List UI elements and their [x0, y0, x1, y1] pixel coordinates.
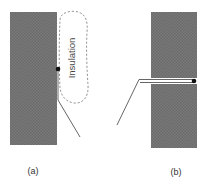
block-b-lower: [151, 84, 197, 148]
block-a: [10, 12, 57, 145]
panel-b: (b): [117, 12, 197, 177]
diagram-canvas: Insulation (a) (b): [0, 0, 205, 185]
junction-dot-b: [192, 79, 197, 84]
panel-b-label: (b): [171, 167, 182, 177]
insulation-label: Insulation: [66, 38, 77, 79]
panel-a-label: (a): [28, 166, 39, 176]
block-b-upper: [151, 12, 197, 78]
junction-dot-a: [56, 67, 61, 72]
panel-a: Insulation (a): [10, 11, 88, 176]
